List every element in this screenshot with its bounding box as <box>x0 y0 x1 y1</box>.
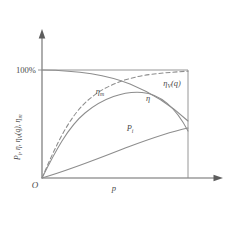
y-axis-arrowhead <box>39 29 46 39</box>
label-eta-v-argument: (q) <box>171 79 181 88</box>
label-p-i-subscript: i <box>132 128 134 134</box>
text-group: 100% O p Pi, η, ηV(q), ηm <box>13 65 117 193</box>
y-label-part-paren-close: ), <box>13 122 22 129</box>
y-tick-label-100-percent: 100% <box>16 65 36 75</box>
curve-eta <box>42 92 188 178</box>
curve-label-eta-m: ηm <box>96 87 104 97</box>
x-axis-label: p <box>111 183 117 193</box>
origin-label: O <box>32 180 39 190</box>
axes-group <box>39 29 223 181</box>
chart-svg: 100% O p Pi, η, ηV(q), ηm ηm ηV(q) η <box>0 0 232 231</box>
curve-label-eta: η <box>146 94 150 103</box>
y-axis-label: Pi, η, ηV(q), ηm <box>13 114 23 161</box>
label-eta-m-subscript: m <box>100 91 104 97</box>
y-axis-label-text: Pi, η, ηV(q), ηm <box>13 114 23 161</box>
x-axis-arrowhead <box>214 175 224 182</box>
figure-container: 100% O p Pi, η, ηV(q), ηm ηm ηV(q) η <box>0 0 232 231</box>
curve-p-i <box>42 128 188 178</box>
label-eta-symbol: η <box>146 94 150 103</box>
y-label-part-m-sub: m <box>17 114 23 118</box>
curve-label-eta-v: ηV(q) <box>163 79 181 89</box>
curve-label-p-i: Pi <box>126 124 134 134</box>
